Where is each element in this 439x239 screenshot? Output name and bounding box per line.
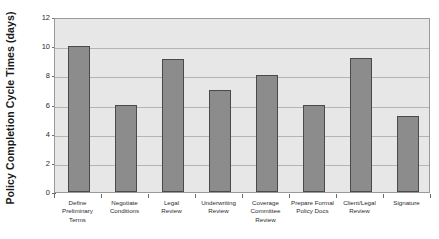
x-tick-label: Negotiate Conditions: [101, 199, 148, 216]
y-tick-label: 10: [32, 43, 50, 51]
bar: [350, 58, 372, 192]
bar: [68, 46, 90, 192]
y-axis-title: Policy Completion Cycle Times (days): [2, 8, 18, 208]
y-tick-label: 4: [32, 131, 50, 139]
plot-area: [54, 18, 430, 193]
bar: [162, 59, 184, 192]
bar: [397, 116, 419, 192]
y-tick-label: 8: [32, 72, 50, 80]
bar: [115, 105, 137, 193]
x-tick-mark: [242, 194, 243, 198]
x-tick-label: Signature: [383, 199, 430, 207]
y-tick-label: 6: [32, 102, 50, 110]
x-tick-mark: [54, 194, 55, 198]
x-tick-mark: [336, 194, 337, 198]
bar: [303, 105, 325, 193]
x-axis-labels: Define Preliminary TermsNegotiate Condit…: [54, 199, 430, 239]
x-tick-label: Prepare Formal Policy Docs: [289, 199, 336, 216]
x-tick-mark: [289, 194, 290, 198]
x-tick-label: Coverage Committee Review: [242, 199, 289, 224]
x-tick-label: Define Preliminary Terms: [54, 199, 101, 224]
bar: [256, 75, 278, 192]
x-tick-mark: [383, 194, 384, 198]
x-tick-label: Underwriting Review: [195, 199, 242, 216]
x-tick-mark: [195, 194, 196, 198]
bars-layer: [55, 19, 429, 192]
y-tick-label: 12: [32, 14, 50, 22]
y-tick-label: 0: [32, 189, 50, 197]
bar: [209, 90, 231, 192]
x-tick-mark: [148, 194, 149, 198]
x-tick-label: Client/Legal Review: [336, 199, 383, 216]
x-tick-mark: [430, 194, 431, 198]
x-tick-label: Legal Review: [148, 199, 195, 216]
bar-chart: Policy Completion Cycle Times (days) 024…: [0, 0, 439, 239]
x-tick-mark: [101, 194, 102, 198]
y-axis-ticks: 024681012: [30, 18, 50, 193]
y-tick-label: 2: [32, 160, 50, 168]
